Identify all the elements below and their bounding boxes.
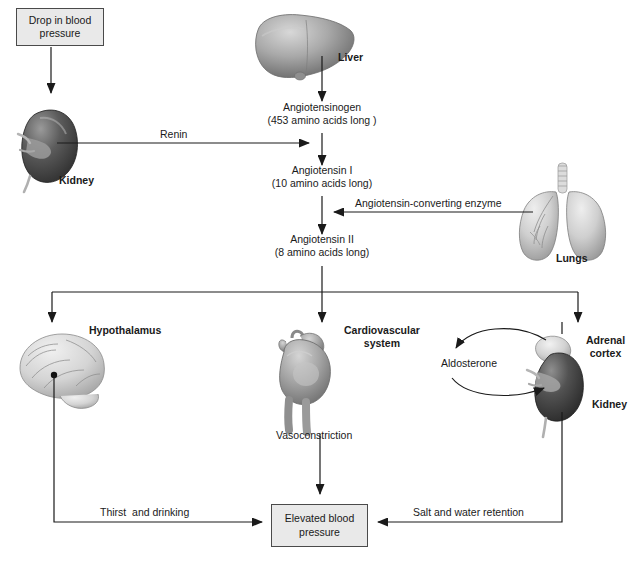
hypothalamus-label: Hypothalamus bbox=[89, 324, 161, 337]
aldosterone-label: Aldosterone bbox=[441, 357, 497, 370]
renin-label: Renin bbox=[160, 128, 187, 141]
elevated-blood-pressure-box: Elevated blood pressure bbox=[271, 504, 368, 547]
kidney-top-label: Kidney bbox=[59, 174, 94, 187]
adrenal-cortex-label: Adrenal cortex bbox=[586, 334, 625, 360]
edge-thirst bbox=[54, 375, 262, 522]
ace-label: Angiotensin-converting enzyme bbox=[355, 197, 502, 210]
angiotensin-1-label: Angiotensin I (10 amino acids long) bbox=[222, 164, 422, 190]
lungs-label: Lungs bbox=[556, 252, 588, 265]
connector-layer bbox=[0, 0, 638, 564]
vasoconstriction-label: Vasoconstriction bbox=[276, 429, 352, 442]
angiotensinogen-label: Angiotensinogen (453 amino acids long ) bbox=[222, 101, 422, 127]
edge-aldosterone-in bbox=[452, 378, 544, 395]
angiotensin-2-label: Angiotensin II (8 amino acids long) bbox=[222, 233, 422, 259]
cardiovascular-system-label: Cardiovascular system bbox=[344, 324, 420, 350]
thirst-and-drinking-label: Thirst and drinking bbox=[100, 506, 189, 519]
drop-in-blood-pressure-box: Drop in blood pressure bbox=[16, 8, 104, 46]
edge-aldosterone-out bbox=[456, 329, 546, 348]
salt-and-water-retention-label: Salt and water retention bbox=[413, 506, 524, 519]
liver-label: Liver bbox=[338, 51, 363, 64]
kidney-bottom-label: Kidney bbox=[592, 398, 627, 411]
diagram-canvas: Drop in blood pressure Elevated blood pr… bbox=[0, 0, 638, 564]
